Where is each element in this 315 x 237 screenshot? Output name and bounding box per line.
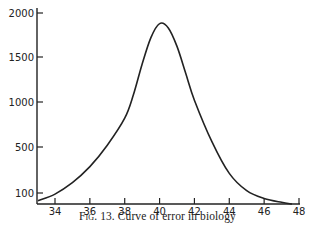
y-tick-label: 1500 — [9, 52, 34, 63]
chart-plot: 100500100015002000 3436384042444648 — [0, 0, 315, 237]
error-curve — [38, 23, 292, 204]
figure-caption: Fig. 13. Curve of error in biology — [0, 210, 315, 222]
y-tick-label: 2000 — [9, 8, 34, 19]
y-tick-label: 500 — [15, 142, 34, 153]
figure-title: Curve of error in biology — [118, 210, 236, 222]
y-tick-label: 100 — [15, 188, 34, 199]
y-axis: 100500100015002000 — [9, 8, 43, 205]
figure-number: Fig. 13. — [79, 210, 115, 222]
y-tick-label: 1000 — [9, 97, 34, 108]
